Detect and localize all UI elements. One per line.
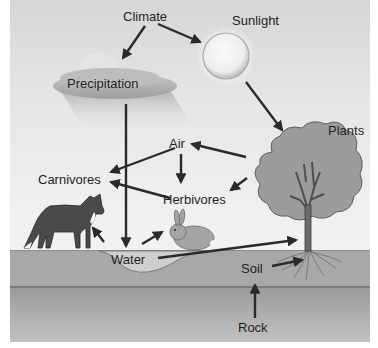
node-precipitation: Precipitation xyxy=(67,77,139,90)
node-sunlight: Sunlight xyxy=(232,14,279,27)
tree-roots xyxy=(278,251,342,280)
fox-icon xyxy=(24,194,104,248)
node-rock: Rock xyxy=(238,321,268,334)
arrow-soil-plants xyxy=(272,260,302,266)
rabbit-icon xyxy=(170,209,218,250)
arrow-plants-air xyxy=(192,144,246,157)
node-water: Water xyxy=(111,253,145,266)
node-air: Air xyxy=(169,137,185,150)
arrow-climate-sunlight xyxy=(158,24,200,42)
arrow-herbivores-carnivores xyxy=(111,182,170,198)
arrow-water-herbivores xyxy=(142,232,162,244)
node-carnivores: Carnivores xyxy=(38,173,101,186)
node-soil: Soil xyxy=(241,262,263,275)
arrow-sunlight-plants xyxy=(246,82,282,130)
ecosystem-diagram: Climate Sunlight Precipitation Plants Ai… xyxy=(10,0,370,342)
node-plants: Plants xyxy=(328,124,364,137)
sun-icon xyxy=(196,26,256,86)
arrow-air-carnivores xyxy=(111,148,175,172)
arrow-climate-precipitation xyxy=(123,26,145,58)
node-herbivores: Herbivores xyxy=(163,193,226,206)
arrow-water-carnivores xyxy=(93,228,104,242)
arrow-plants-herbivores xyxy=(231,178,247,190)
node-climate: Climate xyxy=(123,10,167,23)
tree-icon xyxy=(255,122,362,251)
diagram-illustration xyxy=(10,0,370,342)
